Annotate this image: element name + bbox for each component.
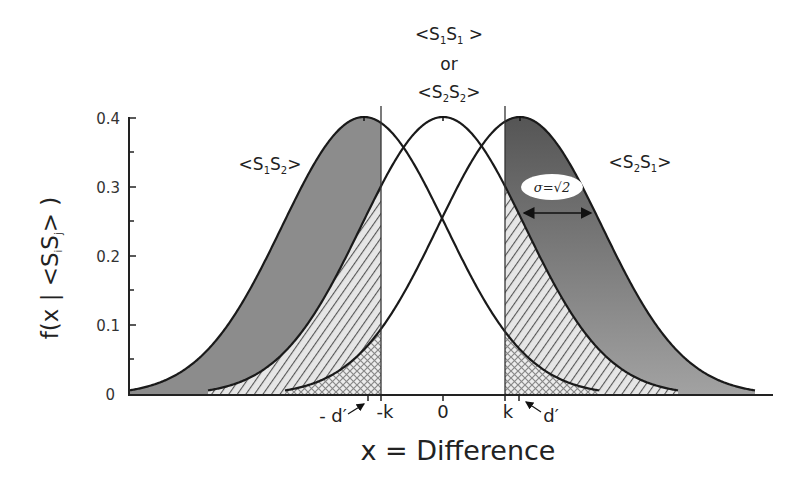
y-tick-0.2: 0.2 [96,248,120,266]
y-tick-0.3: 0.3 [96,179,120,197]
y-axis [129,117,136,395]
x-tick-neg-dprime: - d′ [319,405,347,426]
x-tick-zero: 0 [437,401,448,422]
label-s1s1: <S1S1 > [415,24,483,46]
y-tick-0.1: 0.1 [96,317,120,335]
neg-dprime-arrow [348,404,364,414]
label-or: or [440,54,457,74]
label-s2s2: <S2S2> [418,82,481,104]
sigma-label: σ=√2 [534,180,570,195]
x-tick-dprime: d′ [543,405,559,426]
x-tick-neg-k: -k [377,401,394,422]
x-axis [128,395,773,401]
y-axis-title: f(x | <SiSj> ) [37,197,64,340]
dprime-arrow [526,402,541,412]
y-tick-0.4: 0.4 [96,110,120,128]
y-tick-0: 0 [105,386,115,404]
label-s2s1: <S2S1> [609,152,672,174]
x-axis-title: x = Difference [361,435,556,466]
label-s1s2: <S1S2> [239,154,302,176]
chart-canvas: 0.4 0.3 0.2 0.1 0 - d′ -k 0 k d′ x = Dif… [0,0,800,492]
x-tick-k: k [503,401,514,422]
